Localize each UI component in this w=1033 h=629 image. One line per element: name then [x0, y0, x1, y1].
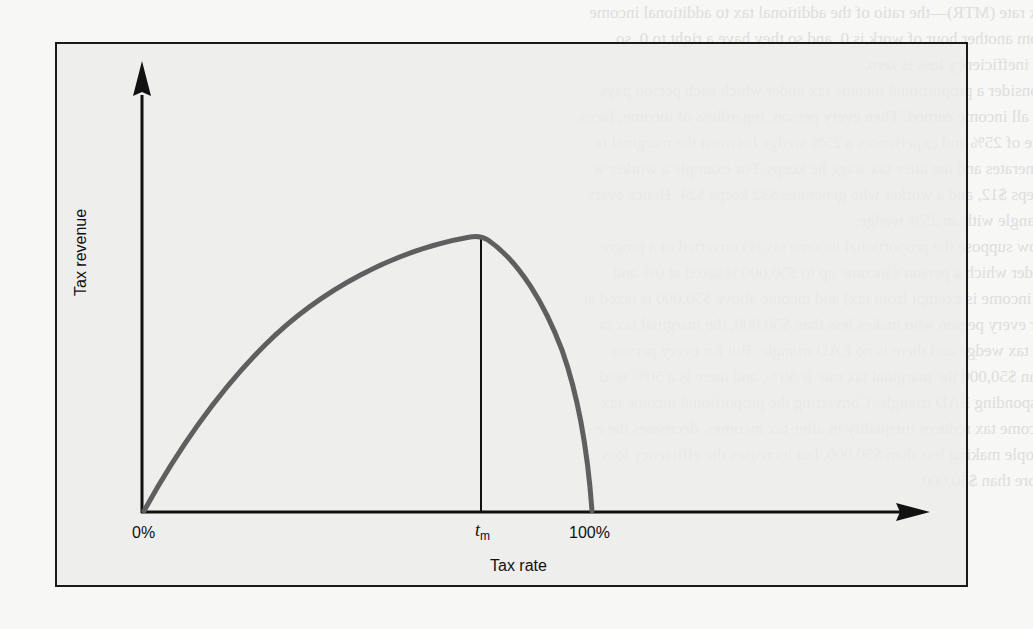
x-tick-0-percent: 0% [132, 524, 155, 542]
x-axis-label: Tax rate [490, 557, 547, 575]
y-axis-label: Tax revenue [72, 209, 90, 296]
x-axis [141, 503, 930, 521]
laffer-curve [144, 236, 592, 511]
y-axis-arrowhead-icon [133, 61, 151, 96]
x-tick-100-percent: 100% [569, 524, 610, 542]
x-tick-tm: tm [475, 520, 490, 543]
tm-subscript: m [480, 529, 490, 543]
y-axis [133, 61, 151, 513]
x-axis-arrowhead-icon [896, 503, 930, 521]
textbook-page: tax rate (MTR)—the ratio of the addition… [0, 0, 1033, 629]
